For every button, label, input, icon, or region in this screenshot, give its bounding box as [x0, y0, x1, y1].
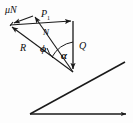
friction-angle-label: ϕ	[40, 43, 46, 54]
resultant-force-label: R	[20, 43, 26, 53]
applied-force-subscript: 1	[47, 15, 50, 21]
applied-force-label: P1	[41, 9, 50, 21]
diagram-canvas	[0, 0, 133, 123]
incline-surface-line	[30, 62, 125, 114]
friction-vector-muN	[14, 16, 33, 23]
incline-angle-label: α	[61, 50, 67, 61]
normal-force-label: N	[43, 28, 49, 37]
weight-force-label: Q	[79, 41, 86, 51]
force-diagram-figure: μN P1 N R ϕ α Q	[0, 0, 133, 123]
friction-force-label: μN	[5, 5, 17, 15]
